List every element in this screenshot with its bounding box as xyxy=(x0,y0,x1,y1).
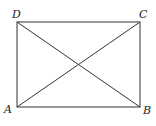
rectangle-diagram: A B C D xyxy=(0,0,156,126)
vertex-label-a: A xyxy=(3,103,12,116)
vertex-label-b: B xyxy=(142,104,151,117)
vertex-label-c: C xyxy=(139,8,148,21)
vertex-label-d: D xyxy=(11,8,21,21)
